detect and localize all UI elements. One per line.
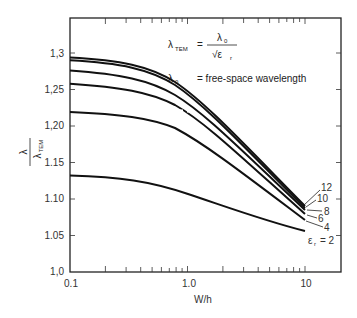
svg-text:1.10: 1.10 xyxy=(45,193,65,204)
svg-text:=: = xyxy=(197,39,203,50)
plot-frame xyxy=(70,18,341,272)
svg-text:r: r xyxy=(314,241,316,247)
svg-text:4: 4 xyxy=(324,222,330,233)
formula-annotation: λ TEM = λ 0 √ε r λ 0 = free-space wavele… xyxy=(168,32,306,85)
curve-er-2 xyxy=(70,176,305,231)
svg-text:1,0: 1,0 xyxy=(50,266,64,277)
svg-text:1.0: 1.0 xyxy=(182,278,196,289)
y-tick-labels: 1,0 1.05 1.10 1.15 1,20 1,25 1,3 xyxy=(45,48,65,277)
svg-text:ε: ε xyxy=(308,235,313,246)
svg-text:λ: λ xyxy=(18,150,29,155)
svg-text:12: 12 xyxy=(321,182,333,193)
x-tick-labels: 0.1 1.0 10 xyxy=(64,278,312,289)
x-axis-label: W/h xyxy=(194,294,212,305)
svg-text:1.15: 1.15 xyxy=(45,157,65,168)
svg-text:0.1: 0.1 xyxy=(64,278,78,289)
svg-text:λ: λ xyxy=(217,32,222,43)
svg-text:0: 0 xyxy=(224,38,228,44)
x-ticks xyxy=(105,18,305,272)
curve-er-4 xyxy=(70,112,305,220)
svg-text:1,20: 1,20 xyxy=(45,120,65,131)
svg-text:1,3: 1,3 xyxy=(50,48,64,59)
svg-text:r: r xyxy=(230,55,232,61)
svg-text:1.05: 1.05 xyxy=(45,230,65,241)
chart: 1,0 1.05 1.10 1.15 1,20 1,25 1,3 0.1 1.0… xyxy=(0,0,357,318)
svg-text:TEM: TEM xyxy=(38,140,44,153)
svg-text:TEM: TEM xyxy=(175,46,188,52)
svg-text:8: 8 xyxy=(324,206,330,217)
svg-text:√ε: √ε xyxy=(212,49,222,60)
svg-text:1,25: 1,25 xyxy=(45,84,65,95)
svg-text:= 2: = 2 xyxy=(320,235,335,246)
svg-text:λ: λ xyxy=(32,154,43,159)
svg-text:= free-space wavelength: = free-space wavelength xyxy=(197,73,306,84)
svg-text:λ: λ xyxy=(168,39,173,50)
curve-labels: 12 10 8 6 4 ε r = 2 xyxy=(304,182,335,247)
svg-text:10: 10 xyxy=(300,278,312,289)
y-axis-label: λ λ TEM xyxy=(18,138,44,166)
svg-text:10: 10 xyxy=(317,193,329,204)
